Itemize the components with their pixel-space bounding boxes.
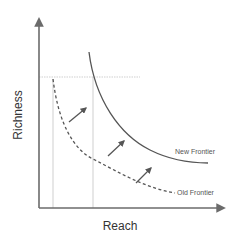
reference-lines <box>39 77 140 208</box>
new-frontier-curve <box>89 52 208 163</box>
new-frontier-label: New Frontier <box>175 148 216 155</box>
shift-arrow-icon <box>108 141 124 156</box>
x-axis-label: Reach <box>103 219 138 233</box>
y-axis-label: Richness <box>11 90 25 139</box>
old-frontier-label: Old Frontier <box>177 189 215 196</box>
axes <box>39 19 224 208</box>
shift-arrow-icon <box>136 168 151 183</box>
shift-arrow-icon <box>69 108 86 122</box>
old-frontier-curve <box>53 79 175 193</box>
reach-richness-diagram: New Frontier Old Frontier Reach Richness <box>0 0 242 246</box>
shift-arrows <box>69 108 151 183</box>
